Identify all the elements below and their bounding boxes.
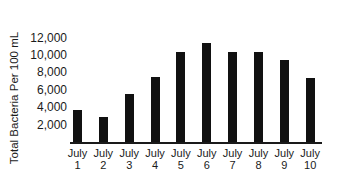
y-tick-label: 8,000 xyxy=(23,66,67,78)
bar xyxy=(254,52,263,143)
bar xyxy=(176,52,185,143)
y-tick-label: 10,000 xyxy=(23,49,67,61)
bar xyxy=(99,117,108,143)
y-tick-label: 6,000 xyxy=(23,84,67,96)
bar xyxy=(280,60,289,143)
bar xyxy=(73,110,82,143)
bar xyxy=(151,77,160,143)
y-tick-label: 4,000 xyxy=(23,101,67,113)
bar xyxy=(306,78,315,143)
y-tick-label: 2,000 xyxy=(23,119,67,131)
bar-chart: Total Bacteria Per 100 mL 2,0004,0006,00… xyxy=(0,0,342,186)
x-tick-label: July10 xyxy=(295,148,325,171)
bar xyxy=(202,43,211,143)
bar xyxy=(125,94,134,143)
x-axis-line xyxy=(70,142,322,144)
bar xyxy=(228,52,237,143)
y-axis-label: Total Bacteria Per 100 mL xyxy=(8,32,20,164)
y-tick-label: 12,000 xyxy=(23,32,67,44)
